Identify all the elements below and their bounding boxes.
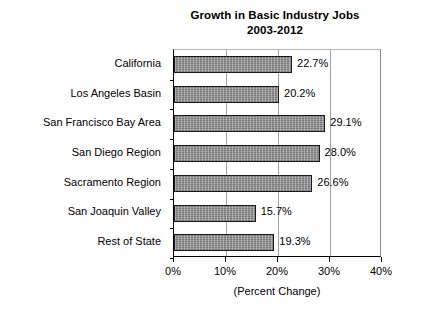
x-axis-tick-label: 30% (306, 265, 352, 277)
x-axis-tick (225, 257, 226, 262)
x-axis-title: (Percent Change) (173, 285, 381, 297)
bar-row (174, 50, 380, 80)
bar[interactable] (174, 56, 292, 73)
chart-figure: Growth in Basic Industry Jobs 2003-2012 … (0, 0, 448, 319)
x-axis-tick (381, 257, 382, 262)
category-label: Rest of State (0, 235, 167, 247)
bar[interactable] (174, 175, 312, 192)
category-label: Los Angeles Basin (0, 87, 167, 99)
bar-row (174, 169, 380, 199)
value-label: 15.7% (261, 205, 292, 217)
chart-title: Growth in Basic Industry Jobs 2003-2012 (150, 8, 400, 38)
y-axis-tick (170, 199, 174, 200)
y-axis-tick (170, 169, 174, 170)
category-label: California (0, 57, 167, 69)
bar[interactable] (174, 145, 320, 162)
value-label: 19.3% (279, 235, 310, 247)
x-axis-tick-label: 0% (150, 265, 196, 277)
y-axis-tick (170, 109, 174, 110)
category-label: Sacramento Region (0, 176, 167, 188)
value-label: 28.0% (325, 146, 356, 158)
bar[interactable] (174, 205, 256, 222)
value-label: 22.7% (297, 57, 328, 69)
chart-subtitle: 2003-2012 (150, 23, 400, 38)
value-label: 26.6% (317, 176, 348, 188)
bar[interactable] (174, 234, 274, 251)
chart-title-main: Growth in Basic Industry Jobs (190, 9, 359, 21)
y-axis-tick (170, 80, 174, 81)
y-axis-tick (170, 228, 174, 229)
x-axis-tick (277, 257, 278, 262)
bar-row (174, 80, 380, 110)
x-axis-tick (329, 257, 330, 262)
bar[interactable] (174, 86, 279, 103)
x-axis-tick-label: 20% (254, 265, 300, 277)
bar-row (174, 228, 380, 258)
x-axis-tick-label: 40% (358, 265, 404, 277)
category-label: San Francisco Bay Area (0, 116, 167, 128)
y-axis-tick (170, 139, 174, 140)
x-axis-tick (173, 257, 174, 262)
bar[interactable] (174, 115, 325, 132)
category-label: San Diego Region (0, 146, 167, 158)
value-label: 29.1% (330, 116, 361, 128)
category-label: San Joaquin Valley (0, 205, 167, 217)
x-axis-tick-label: 10% (202, 265, 248, 277)
value-label: 20.2% (284, 87, 315, 99)
